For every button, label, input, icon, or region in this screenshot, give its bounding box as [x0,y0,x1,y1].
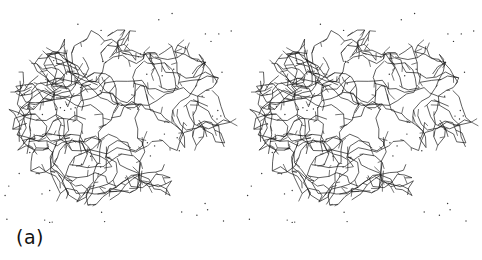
stereo-figure: (a) [0,0,482,260]
stereo-panel-right [241,0,482,245]
molecular-wireframe-left [0,0,241,245]
molecular-wireframe-right [241,0,482,245]
figure-panel-label: (a) [16,228,44,247]
stereo-panel-left [0,0,241,245]
